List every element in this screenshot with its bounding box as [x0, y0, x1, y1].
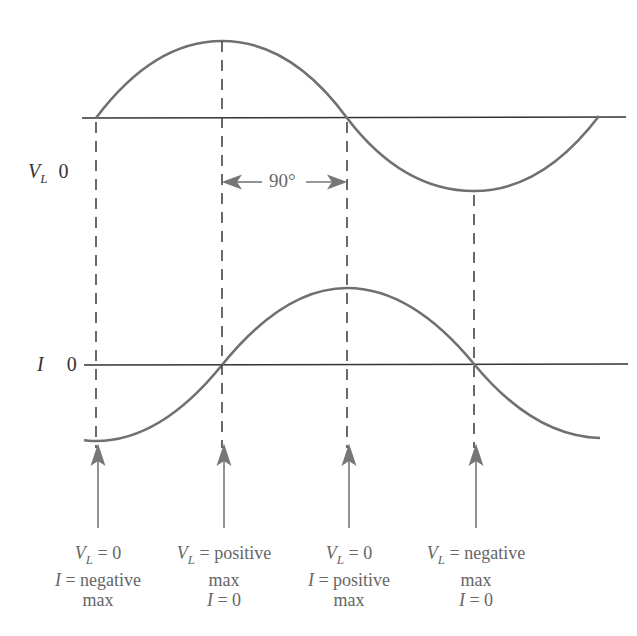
annotation-3: VL = 0 I = positive max — [284, 543, 414, 610]
vl-zero: 0 — [58, 160, 68, 182]
vl-axis — [82, 117, 626, 118]
i-symbol: I — [37, 353, 44, 375]
i-zero: 0 — [67, 353, 77, 375]
i-axis-label: I 0 — [37, 353, 77, 376]
vl-symbol: V — [28, 160, 40, 182]
dashed-guides — [96, 41, 474, 448]
i-axis — [84, 364, 628, 365]
phase-label: 90° — [265, 170, 300, 192]
annotation-1: VL = 0 I = negative max — [33, 543, 163, 610]
vl-axis-label: VL 0 — [28, 160, 68, 187]
pointer-arrows — [92, 446, 482, 528]
vl-subscript: L — [40, 171, 47, 186]
annotation-4: VL = negative max I = 0 — [411, 543, 541, 610]
phase-diagram — [0, 0, 637, 636]
annotation-2: VL = positive max I = 0 — [159, 543, 289, 610]
